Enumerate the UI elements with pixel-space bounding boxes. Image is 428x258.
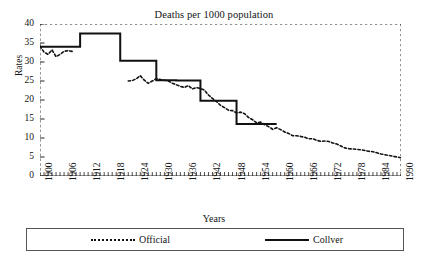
y-tick-label: 10 bbox=[4, 133, 34, 142]
legend-item-official: Official bbox=[91, 229, 170, 250]
x-tick-label: 1966 bbox=[309, 163, 319, 181]
y-tick-label: 15 bbox=[4, 114, 34, 123]
x-tick-label: 1924 bbox=[140, 163, 150, 181]
y-tick-label: 25 bbox=[4, 76, 34, 85]
y-tick-label: 20 bbox=[4, 95, 34, 104]
x-tick-label: 1948 bbox=[237, 163, 247, 181]
chart-legend: Official Collver bbox=[26, 228, 404, 251]
plot-svg bbox=[40, 24, 401, 176]
legend-item-collver: Collver bbox=[265, 229, 343, 250]
y-tick-label: 0 bbox=[4, 171, 34, 180]
x-tick-label: 1978 bbox=[357, 163, 367, 181]
x-tick-label: 1936 bbox=[188, 163, 198, 181]
x-tick-label: 1930 bbox=[164, 163, 174, 181]
x-tick-label: 1906 bbox=[68, 163, 78, 181]
x-tick-label: 1972 bbox=[333, 163, 343, 181]
plot-area: Rates 0510152025303540 19001906191219181… bbox=[40, 24, 401, 176]
x-tick-label: 1990 bbox=[405, 163, 415, 181]
y-tick-label: 35 bbox=[4, 38, 34, 47]
x-tick-label: 1900 bbox=[44, 163, 54, 181]
x-tick-label: 1960 bbox=[285, 163, 295, 181]
dotted-line-swatch-icon bbox=[91, 236, 135, 244]
series-layer bbox=[40, 34, 401, 158]
x-tick-label: 1942 bbox=[212, 163, 222, 181]
chart-figure: Deaths per 1000 population Rates 0510152… bbox=[0, 0, 428, 258]
y-tick-label: 40 bbox=[4, 19, 34, 28]
x-axis-label: Years bbox=[0, 213, 428, 224]
chart-title: Deaths per 1000 population bbox=[0, 9, 428, 20]
x-tick-label: 1984 bbox=[381, 163, 391, 181]
series-line-official bbox=[40, 46, 401, 158]
solid-line-swatch-icon bbox=[265, 236, 309, 244]
x-tick-label: 1912 bbox=[92, 163, 102, 181]
y-tick-label: 5 bbox=[4, 152, 34, 161]
series-line-collver bbox=[40, 34, 277, 124]
legend-label-collver: Collver bbox=[313, 234, 343, 245]
legend-label-official: Official bbox=[139, 234, 170, 245]
y-tick-label: 30 bbox=[4, 57, 34, 66]
x-tick-label: 1954 bbox=[261, 163, 271, 181]
x-tick-label: 1918 bbox=[116, 163, 126, 181]
